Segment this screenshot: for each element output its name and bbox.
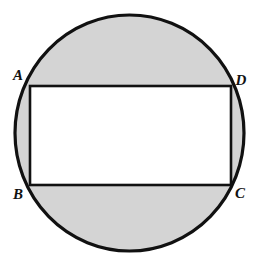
figure-svg: A D B C	[0, 0, 257, 263]
vertex-label-a: A	[12, 67, 23, 83]
inscribed-rectangle	[30, 86, 231, 185]
vertex-label-d: D	[235, 72, 247, 88]
geometry-figure-canvas: A D B C	[0, 0, 257, 263]
vertex-label-c: C	[235, 185, 246, 201]
vertex-label-b: B	[12, 186, 23, 202]
